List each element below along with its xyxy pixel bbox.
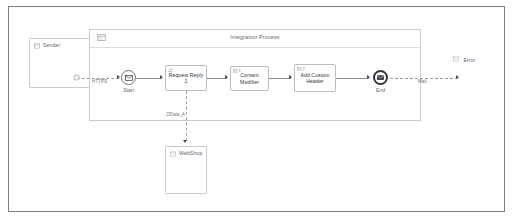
connector-label-mail: Mail <box>418 80 426 85</box>
iflow-canvas[interactable]: Sender Integration Process HTTPS <box>9 7 504 211</box>
connector-request-reply-to-content-modifier[interactable] <box>207 78 227 79</box>
request-reply-icon <box>168 68 173 73</box>
participant-sender[interactable]: Sender <box>29 38 91 88</box>
pool-header-divider <box>90 47 420 48</box>
receiver-participant-icon <box>453 56 459 62</box>
connector-add-custom-header-to-end[interactable] <box>336 78 369 79</box>
sender-participant-icon <box>34 43 40 49</box>
event-start-label: Start <box>109 88 149 93</box>
step-content-modifier-number: 1 <box>239 69 241 73</box>
participant-error-label: Error <box>463 57 475 63</box>
connector-start-to-request-reply-arrow <box>160 75 163 79</box>
diagram-frame: Sender Integration Process HTTPS <box>8 6 505 212</box>
event-end[interactable] <box>373 70 388 85</box>
participant-webshop-header: WebShop <box>166 147 202 160</box>
step-add-custom-header-label-line2: Header <box>306 78 323 84</box>
connector-label-https: HTTPS <box>92 80 107 85</box>
connector-request-reply-to-content-modifier-arrow <box>225 75 228 79</box>
content-modifier-icon <box>297 67 302 72</box>
connector-content-modifier-to-add-custom-header-arrow <box>289 75 292 79</box>
participant-sender-header: Sender <box>30 39 60 52</box>
connector-content-modifier-to-add-custom-header[interactable] <box>269 78 291 79</box>
sender-connection-endpoint <box>73 74 80 81</box>
message-start-event-icon <box>125 75 133 81</box>
message-end-event-icon <box>377 75 384 80</box>
step-content-modifier[interactable]: 1 Content Modifier <box>230 66 269 91</box>
event-start[interactable] <box>121 70 136 85</box>
pool-title: Integration Process <box>90 34 420 40</box>
event-end-label: End <box>361 88 401 93</box>
step-add-custom-header-badge: 2 <box>297 67 305 72</box>
step-add-custom-header-label-line1: Add Custom <box>300 72 329 78</box>
participant-error[interactable]: Error <box>453 48 475 66</box>
participant-sender-label: Sender <box>43 43 60 48</box>
connector-request-reply-to-webshop[interactable] <box>186 91 187 141</box>
connector-end-to-error-arrow <box>456 75 459 79</box>
connector-request-reply-to-webshop-arrow <box>183 140 187 143</box>
participant-webshop[interactable]: WebShop <box>165 146 207 194</box>
step-add-custom-header[interactable]: 2 Add Custom Header <box>294 64 336 92</box>
step-request-reply-1[interactable]: Request Reply 1 <box>165 65 207 91</box>
step-content-modifier-label: Content Modifier <box>231 72 268 85</box>
step-add-custom-header-number: 2 <box>303 67 305 71</box>
connector-start-to-request-reply[interactable] <box>136 78 162 79</box>
connector-add-custom-header-to-end-arrow <box>367 75 370 79</box>
step-add-custom-header-label: Add Custom Header <box>298 72 331 85</box>
step-content-modifier-badge: 1 <box>233 69 241 74</box>
connector-label-odata: OData_A <box>166 113 185 118</box>
step-request-reply-1-label: Request Reply 1 <box>166 72 206 85</box>
step-request-reply-1-badge <box>168 68 173 73</box>
receiver-participant-icon <box>170 151 176 157</box>
participant-webshop-label: WebShop <box>179 151 202 156</box>
connector-sender-to-start-arrow <box>117 75 120 79</box>
content-modifier-icon <box>233 69 238 74</box>
